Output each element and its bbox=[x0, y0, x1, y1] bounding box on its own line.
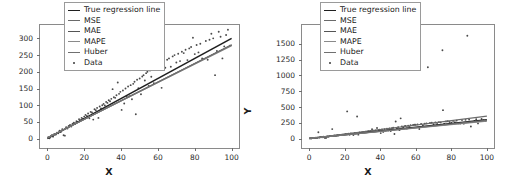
data-point bbox=[168, 57, 170, 59]
legend-item-true-regression-line: True regression line bbox=[324, 5, 416, 16]
legend-item-label: Data bbox=[340, 58, 359, 69]
x-tick-label: 40 bbox=[106, 153, 136, 162]
y-tick-mark bbox=[299, 75, 302, 76]
line-swatch-icon bbox=[68, 37, 80, 46]
line-swatch-icon bbox=[68, 16, 80, 25]
x-tick-label: 20 bbox=[69, 153, 99, 162]
data-point bbox=[64, 135, 66, 137]
data-point bbox=[95, 109, 97, 111]
data-point bbox=[96, 107, 98, 109]
regression-line-huber bbox=[309, 120, 487, 138]
data-point bbox=[83, 116, 85, 118]
y-tick-mark bbox=[299, 60, 302, 61]
data-point bbox=[161, 87, 163, 89]
x-tick-mark bbox=[47, 148, 48, 151]
data-point bbox=[118, 93, 120, 95]
data-point bbox=[227, 29, 229, 31]
data-point bbox=[99, 106, 101, 108]
line-swatch-icon bbox=[324, 6, 336, 15]
legend-item-label: Data bbox=[84, 58, 103, 69]
data-point bbox=[210, 33, 212, 35]
y-tick-label: 200 bbox=[3, 67, 33, 76]
data-point bbox=[125, 88, 127, 90]
y-tick-mark bbox=[37, 139, 40, 140]
data-point bbox=[130, 84, 132, 86]
legend-item-label: Huber bbox=[84, 47, 108, 58]
data-point bbox=[97, 117, 99, 119]
x-tick-label: 0 bbox=[294, 153, 324, 162]
y-tick-label: 0 bbox=[265, 134, 295, 143]
legend-item-mae: MAE bbox=[68, 26, 160, 37]
y-tick-label: 500 bbox=[265, 103, 295, 112]
x-axis-label-right: X bbox=[338, 166, 398, 177]
y-tick-mark bbox=[37, 105, 40, 106]
data-point bbox=[185, 49, 187, 51]
x-tick-mark bbox=[345, 148, 346, 151]
y-tick-mark bbox=[37, 72, 40, 73]
x-tick-label: 60 bbox=[143, 153, 173, 162]
x-tick-mark bbox=[380, 148, 381, 151]
data-point bbox=[131, 98, 133, 100]
y-tick-mark bbox=[299, 139, 302, 140]
legend-item-mape: MAPE bbox=[68, 37, 160, 48]
legend-right: True regression lineMSEMAEMAPEHuberData bbox=[320, 2, 421, 71]
x-tick-label: 20 bbox=[330, 153, 360, 162]
data-point bbox=[207, 59, 209, 61]
legend-item-mape: MAPE bbox=[324, 37, 416, 48]
x-tick-mark bbox=[309, 148, 310, 151]
y-tick-label: 750 bbox=[265, 87, 295, 96]
x-tick-mark bbox=[158, 148, 159, 151]
data-point bbox=[109, 100, 111, 102]
data-point bbox=[136, 79, 138, 81]
data-point bbox=[181, 51, 183, 53]
data-point bbox=[331, 128, 333, 130]
data-point bbox=[175, 61, 177, 63]
y-tick-mark bbox=[37, 122, 40, 123]
data-point bbox=[356, 116, 358, 118]
legend-item-true-regression-line: True regression line bbox=[68, 5, 160, 16]
x-tick-label: 80 bbox=[436, 153, 466, 162]
line-swatch-icon bbox=[324, 27, 336, 36]
x-tick-mark bbox=[416, 148, 417, 151]
legend-item-label: MAE bbox=[84, 26, 101, 37]
data-point bbox=[380, 132, 382, 134]
legend-item-label: True regression line bbox=[84, 5, 160, 16]
regression-loss-comparison-figure: 020406080100050100150200250300 X Y True … bbox=[0, 0, 510, 185]
data-point bbox=[470, 126, 472, 128]
data-point bbox=[220, 36, 222, 38]
data-point bbox=[376, 127, 378, 129]
y-tick-label: 1500 bbox=[265, 39, 295, 48]
data-point bbox=[223, 45, 225, 47]
data-point bbox=[127, 86, 129, 88]
x-tick-mark bbox=[84, 148, 85, 151]
legend-item-huber: Huber bbox=[68, 47, 160, 58]
legend-left: True regression lineMSEMAEMAPEHuberData bbox=[64, 2, 165, 71]
legend-item-data: Data bbox=[324, 58, 416, 69]
data-point bbox=[174, 54, 176, 56]
data-point bbox=[395, 121, 397, 123]
data-point bbox=[393, 133, 395, 135]
y-tick-label: 0 bbox=[3, 134, 33, 143]
data-point bbox=[121, 109, 123, 111]
legend-item-mse: MSE bbox=[68, 16, 160, 27]
data-point bbox=[135, 113, 137, 115]
data-point bbox=[106, 102, 108, 104]
line-swatch-icon bbox=[324, 37, 336, 46]
data-point-marker-icon bbox=[68, 58, 80, 67]
data-point bbox=[87, 113, 89, 115]
x-tick-mark bbox=[451, 148, 452, 151]
y-tick-label: 250 bbox=[265, 118, 295, 127]
x-axis-label-left: X bbox=[79, 166, 139, 177]
y-tick-label: 50 bbox=[3, 117, 33, 126]
data-point bbox=[170, 66, 172, 68]
legend-item-mae: MAE bbox=[324, 26, 416, 37]
data-point bbox=[317, 131, 319, 133]
legend-item-label: Huber bbox=[340, 47, 364, 58]
legend-item-huber: Huber bbox=[324, 47, 416, 58]
y-tick-mark bbox=[299, 107, 302, 108]
chart-panel-left: 020406080100050100150200250300 X Y True … bbox=[0, 0, 255, 185]
y-axis-label-right: Y bbox=[242, 55, 253, 115]
data-point bbox=[122, 90, 124, 92]
x-tick-mark bbox=[195, 148, 196, 151]
y-tick-label: 1250 bbox=[265, 55, 295, 64]
